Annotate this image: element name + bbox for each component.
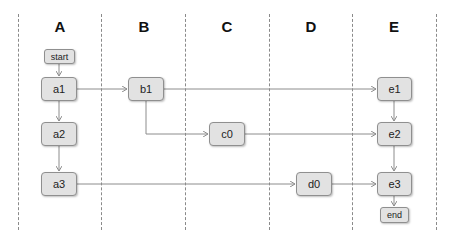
node-e1[interactable]: e1 — [377, 77, 412, 101]
node-a3[interactable]: a3 — [41, 172, 77, 196]
node-c0[interactable]: c0 — [209, 122, 245, 146]
node-e2[interactable]: e2 — [377, 122, 412, 146]
node-a1[interactable]: a1 — [41, 77, 77, 101]
swimlane-diagram: A B C D E start a1 — [0, 0, 456, 242]
node-e3[interactable]: e3 — [377, 172, 412, 196]
node-start[interactable]: start — [44, 49, 75, 64]
node-d0[interactable]: d0 — [296, 172, 332, 196]
edges-layer — [0, 0, 456, 242]
node-end[interactable]: end — [380, 207, 409, 223]
edge-b1-c0 — [146, 101, 208, 134]
node-a2[interactable]: a2 — [41, 122, 77, 146]
node-b1[interactable]: b1 — [128, 77, 164, 101]
